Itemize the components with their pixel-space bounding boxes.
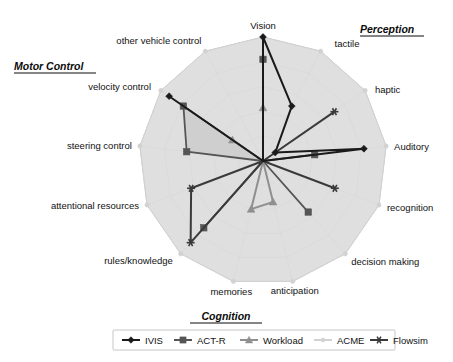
axis-label-auditory: Auditory [394,141,429,152]
chart-legend: IVISACT-RWorkloadACMEFlowsim [113,330,428,350]
axis-label-steering-control: steering control [67,140,132,151]
axis-label-tactile: tactile [335,38,360,49]
series-marker-dot [321,338,325,342]
series-marker-dot [318,49,322,53]
series-marker-square [305,209,311,215]
legend-label: Workload [263,335,303,346]
group-label-perception-text: Perception [360,23,414,35]
radar-chart-figure: VisiontactilehapticAuditoryrecognitionde… [0,0,453,362]
series-marker-square [180,337,186,343]
axis-label-vision: Vision [250,20,276,31]
series-marker-dot [159,88,163,92]
axis-label-anticipation: anticipation [271,285,319,296]
series-marker-dot [145,203,149,207]
axis-label-haptic: haptic [375,84,401,95]
series-marker-dot [363,88,367,92]
series-marker-dot [231,279,235,283]
series-marker-dot [290,279,294,283]
axis-label-decision-making: decision making [351,256,419,267]
axis-label-other-vehicle-control: other vehicle control [116,35,201,46]
series-marker-dot [179,252,183,256]
legend-label: Flowsim [393,335,428,346]
axis-label-velocity-control: velocity control [88,81,151,92]
axis-label-rules-knowledge: rules/knowledge [104,255,173,266]
radar-chart-svg: VisiontactilehapticAuditoryrecognitionde… [0,0,453,362]
series-marker-dot [343,252,347,256]
axis-label-memories: memories [210,286,252,297]
legend-label: ACME [337,335,364,346]
group-label-cognition-text: Cognition [202,310,251,322]
axis-label-recognition: recognition [387,202,433,213]
group-label-motor-control-text: Motor Control [14,60,84,72]
legend-label: IVIS [145,335,163,346]
series-marker-dot [377,203,381,207]
legend-label: ACT-R [197,335,226,346]
series-marker-dot [384,144,388,148]
series-marker-dot [138,144,142,148]
axis-label-attentional-resources: attentional resources [51,200,139,211]
series-marker-square [183,149,189,155]
series-marker-dot [203,49,207,53]
